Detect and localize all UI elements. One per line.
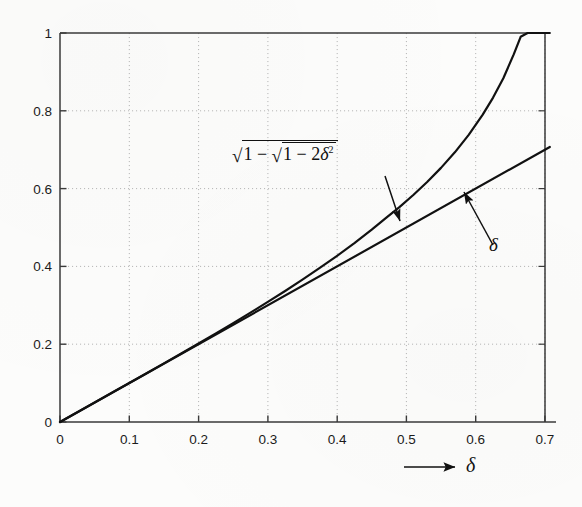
- x-tick-label: 0.2: [189, 432, 208, 447]
- y-tick-label: 0: [14, 415, 52, 430]
- axes-frame: [60, 33, 556, 422]
- annotation-arrow-formula: [385, 176, 400, 221]
- delta-symbol: δ: [320, 144, 328, 164]
- annotation-formula-label: √1 − √1 − 2δ2: [232, 140, 338, 165]
- outer-radical-icon: √1 − √1 − 2δ2: [232, 140, 338, 165]
- x-tick-label: 0.3: [259, 432, 278, 447]
- x-tick-label: 0.5: [397, 432, 416, 447]
- numeral-one-inner: 1: [283, 144, 292, 164]
- scanned-page-background: 0 0.1 0.2 0.3 0.4 0.5 0.6 0.7 0 0.2 0.4 …: [0, 0, 582, 507]
- x-tick-label: 0.7: [536, 432, 555, 447]
- y-axis-ticks-right: [539, 111, 546, 344]
- inner-radicand: 1 − 2δ2: [282, 142, 336, 165]
- radical-sign-outer: √: [232, 145, 242, 166]
- y-tick-label: 0.8: [14, 103, 52, 118]
- x-tick-label: 0.4: [328, 432, 347, 447]
- outer-radicand: 1 − √1 − 2δ2: [242, 140, 337, 165]
- minus-sign-inner: −: [297, 144, 307, 164]
- radical-sign-inner: √: [272, 145, 282, 166]
- inner-radical-icon: √1 − 2δ2: [272, 142, 336, 165]
- minus-sign-outer: −: [257, 144, 267, 164]
- exponent-two: 2: [329, 144, 334, 155]
- coefficient-two: 2: [311, 144, 320, 164]
- x-tick-label: 0: [56, 432, 64, 447]
- numeral-one-outer: 1: [243, 144, 252, 164]
- x-axis-title: δ: [466, 454, 475, 477]
- curve-sqrt-expression: [60, 33, 550, 422]
- y-tick-label: 1: [14, 26, 52, 41]
- y-tick-label: 0.4: [14, 259, 52, 274]
- y-tick-label: 0.2: [14, 337, 52, 352]
- grid-lines-vertical: [129, 33, 545, 422]
- y-tick-label: 0.6: [14, 181, 52, 196]
- x-axis-ticks: [60, 416, 545, 423]
- x-tick-label: 0.6: [466, 432, 485, 447]
- y-axis-ticks: [60, 33, 67, 422]
- x-tick-label: 0.1: [120, 432, 139, 447]
- annotation-delta-label: δ: [489, 234, 498, 256]
